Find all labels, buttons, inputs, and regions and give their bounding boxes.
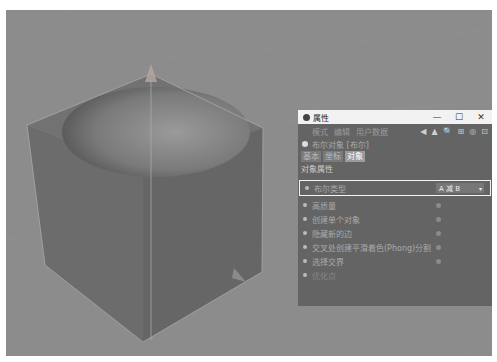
checkbox[interactable] xyxy=(436,231,441,236)
panel-title: 属性 xyxy=(313,112,329,123)
param-dot-icon xyxy=(303,273,307,277)
boolean-type-dropdown[interactable]: A 减 B ▾ xyxy=(436,183,484,193)
param-dot-icon xyxy=(303,259,307,263)
param-boolean-type[interactable]: 布尔类型 A 减 B ▾ xyxy=(299,180,491,196)
menu-user-data[interactable]: 用户数据 xyxy=(356,126,388,137)
section-title: 对象属性 xyxy=(298,164,492,176)
param-label: 选择交界 xyxy=(312,256,344,267)
boolean-object-icon xyxy=(302,141,308,147)
tab-basic[interactable]: 基本 xyxy=(301,151,321,162)
checkbox[interactable] xyxy=(436,217,441,222)
param-hide-new-edges[interactable]: 隐藏新的边 xyxy=(298,226,492,240)
param-dot-icon xyxy=(303,217,307,221)
param-phong-break[interactable]: 交叉处创建平滑着色(Phong)分割 xyxy=(298,240,492,254)
param-label: 高质量 xyxy=(312,200,336,211)
param-optimize-points[interactable]: 优化点 xyxy=(298,268,492,282)
param-dot-icon xyxy=(303,203,307,207)
param-create-single-object[interactable]: 创建单个对象 xyxy=(298,212,492,226)
minimize-button[interactable]: — xyxy=(426,112,448,122)
up-arrow-icon[interactable]: ▲ xyxy=(431,127,437,136)
menu-mode[interactable]: 模式 xyxy=(312,126,328,137)
checkbox[interactable] xyxy=(436,245,441,250)
checkbox[interactable] xyxy=(436,259,441,264)
dropdown-value: A 减 B xyxy=(439,183,460,193)
object-header: 布尔对象 [布尔] xyxy=(298,138,492,150)
close-button[interactable]: ✕ xyxy=(470,112,492,122)
maximize-button[interactable]: ☐ xyxy=(448,112,470,122)
param-label: 布尔类型 xyxy=(314,183,346,194)
menu-edit[interactable]: 编辑 xyxy=(334,126,350,137)
search-icon[interactable]: 🔍 xyxy=(443,127,453,136)
target-icon[interactable]: ◎ xyxy=(469,127,476,136)
param-dot-icon xyxy=(305,186,309,190)
tab-bar: 基本 坐标 对象 xyxy=(298,150,492,162)
checkbox[interactable] xyxy=(436,203,441,208)
lock-icon[interactable]: ⊞ xyxy=(458,127,465,136)
object-label: 布尔对象 [布尔] xyxy=(312,139,369,150)
new-panel-icon[interactable]: ⊡ xyxy=(481,127,488,136)
attributes-panel[interactable]: 属性 — ☐ ✕ 模式 编辑 用户数据 ◀ ▲ 🔍 ⊞ ◎ ⊡ 布尔对象 [布尔… xyxy=(298,110,492,306)
param-label: 隐藏新的边 xyxy=(312,228,352,239)
param-select-intersection[interactable]: 选择交界 xyxy=(298,254,492,268)
param-label: 优化点 xyxy=(312,270,336,281)
tab-coord[interactable]: 坐标 xyxy=(323,151,343,162)
param-dot-icon xyxy=(303,245,307,249)
app-icon xyxy=(303,114,310,121)
menu-bar: 模式 编辑 用户数据 ◀ ▲ 🔍 ⊞ ◎ ⊡ xyxy=(298,124,492,138)
param-dot-icon xyxy=(303,231,307,235)
panel-titlebar[interactable]: 属性 — ☐ ✕ xyxy=(298,110,492,124)
param-label: 交叉处创建平滑着色(Phong)分割 xyxy=(312,242,431,253)
param-label: 创建单个对象 xyxy=(312,214,360,225)
tab-object[interactable]: 对象 xyxy=(345,151,365,162)
param-high-quality[interactable]: 高质量 xyxy=(298,198,492,212)
back-arrow-icon[interactable]: ◀ xyxy=(420,127,426,136)
chevron-down-icon: ▾ xyxy=(479,185,484,192)
y-axis-arrow-icon xyxy=(145,64,157,82)
